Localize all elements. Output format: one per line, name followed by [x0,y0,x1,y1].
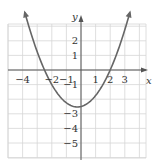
curve-left-arrow-icon [23,10,29,18]
x-tick-label: 2 [107,74,113,85]
axes [8,15,148,160]
y-axis-label: y [71,11,78,22]
x-tick-label: −4 [15,74,30,85]
x-tick-label: −2 [44,74,59,85]
y-tick-label: 2 [72,35,78,46]
y-tick-label: −3 [63,108,78,119]
tick-labels: −4−2−112321−1−3−4−5 [15,35,128,148]
y-tick-label: −4 [63,123,78,134]
x-axis-arrow-icon [141,68,148,73]
x-tick-label: 3 [122,74,128,85]
y-tick-label: −5 [63,138,78,149]
y-tick-label: 1 [72,50,78,61]
y-axis-arrow-icon [79,15,84,22]
x-axis-label: x [146,75,152,86]
curve-right-arrow-icon [126,10,132,18]
parabola-chart: −4−2−112321−1−3−4−5 x y [0,0,155,165]
x-tick-label: 1 [92,74,98,85]
y-tick-label: −1 [63,79,78,90]
